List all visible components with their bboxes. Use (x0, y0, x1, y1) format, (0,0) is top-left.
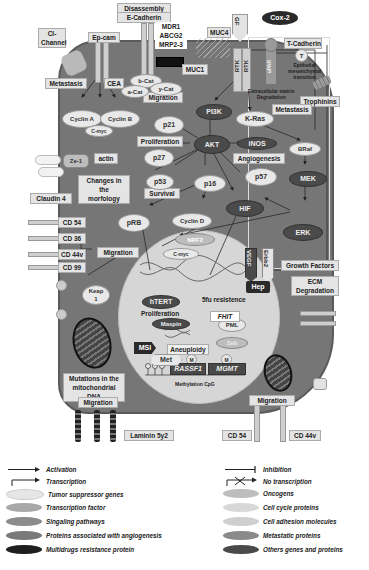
cd44v-label: CD 44v (58, 249, 86, 260)
changes-morphology-label: Changes in the morfology (78, 175, 130, 204)
metastasis-left-label: Metastasis (45, 78, 87, 89)
ep-cam-bar-1 (95, 36, 101, 83)
braf-node: BRaf (289, 142, 321, 156)
mek-node: MEK (289, 171, 327, 187)
proliferation-nucleus-label: Proliferation (141, 310, 179, 317)
laminin-anchor-2 (94, 410, 100, 442)
laminin-label: Laminin 5y2 (124, 430, 174, 441)
cox-2-node: Cox-2 (262, 11, 298, 25)
p27-node: p27 (144, 149, 174, 167)
legend-multidrug: Multidrugs resistance protein (6, 545, 134, 554)
gf-label: GF (234, 17, 240, 25)
migration-bottom-right-label: Migration (249, 395, 295, 406)
cd36-left-bar (28, 236, 60, 241)
mdr-label: MDR1 ABCG2 MRP2-3 (155, 22, 187, 49)
p57-node: p57 (245, 168, 277, 186)
membrane-protein-right (313, 378, 327, 390)
t-cadherin-label: T-Cadherin (284, 38, 322, 49)
cd54-left-bar (28, 220, 60, 225)
right-membrane-bar-2 (300, 321, 336, 326)
legend-metastatic: Metastatic proteins (223, 531, 320, 540)
hif-node: HIF (226, 200, 264, 217)
akt-node: AKT (194, 135, 230, 154)
emt-label: Epithelial mesenchymal transition (288, 62, 321, 80)
cea-label: CEA (104, 78, 124, 89)
5fu-resistance-label: 5fu resistence (202, 296, 246, 303)
inhibition-icon (223, 465, 259, 474)
inos-node: iNOS (237, 137, 277, 150)
actin-label: actin (94, 153, 118, 164)
laminin-anchor-1 (75, 410, 81, 442)
cd54-label: CD 54 (58, 217, 86, 228)
laminin-anchor-3 (110, 410, 116, 442)
c-myc-top-node: C-myc (85, 125, 113, 137)
maspin-node: Maspin (152, 318, 190, 330)
others-swatch (223, 545, 259, 554)
cd44v-left-bar (28, 252, 60, 257)
multidrug-swatch (6, 545, 42, 554)
a-cat-node: a-Cat (121, 85, 149, 98)
ecm-degradation-top-label: Extracellular matrix Degradation (248, 88, 294, 100)
p53-node: p53 (146, 174, 174, 190)
legend-oncogens: Oncogens (223, 489, 294, 498)
zeb-node: Zeb (216, 337, 248, 349)
ze-1-node: Ze-1 (63, 154, 89, 168)
legend-tumor-suppressor: Tumor suppressor genes (6, 489, 123, 500)
nrf2-node: NRF2 (175, 233, 215, 246)
migration-bottom-left-label: Migration (78, 397, 118, 408)
ecm-degradation-label: ECM Degradation (291, 276, 339, 296)
t-cadherin-node: T (295, 49, 308, 62)
claudin-4-protein (35, 155, 61, 165)
activation-arrow-icon (6, 465, 42, 474)
claudin-4-protein-2 (38, 167, 64, 177)
legend-angiogenesis: Proteins associated with angiogenesis (6, 531, 162, 540)
legend-no-transcription: No transcription (223, 477, 312, 486)
aneuploidy-label: Aneuploidy (167, 344, 209, 355)
muc4-glycans (196, 38, 230, 58)
mdr-pump (156, 57, 184, 67)
cd54-bottom-bar (254, 405, 260, 442)
c-myc-nucleus-node: C-myc (163, 248, 199, 260)
rtk-1-label: RTK (234, 60, 240, 72)
tumor-suppressor-swatch (6, 489, 44, 500)
erk-node: ERK (283, 224, 323, 241)
cell-adhesion-swatch (223, 517, 259, 526)
rtk-2-label: RTK (243, 60, 249, 72)
transcription-factor-swatch (6, 503, 42, 512)
muc4-label: MUC4 (207, 27, 231, 38)
cd44v-bottom-label: CD 44v (289, 430, 321, 441)
cl-channel-label: Cl- Channel (38, 28, 66, 48)
migration-left-label: Migration (97, 247, 139, 258)
membrane-protein-left-2 (56, 309, 67, 320)
legend-others: Others genes and proteins (223, 545, 343, 554)
k-ras-node: K-Ras (236, 111, 274, 127)
muc1-label: MUC1 (182, 64, 208, 75)
cd36-label: CD 36 (58, 233, 86, 244)
vegf-label: VEGF (246, 250, 252, 266)
proliferation-top-label: Proliferation (137, 136, 183, 147)
legend-cell-adhesion: Cell adhesion molecules (223, 517, 337, 526)
p16-node: p16 (194, 175, 226, 192)
angiogenesis-swatch (6, 531, 42, 540)
met-node: Met (150, 354, 182, 366)
y-cat-node: y-Cat (150, 82, 182, 96)
msi-node: MSI (134, 342, 156, 354)
upar-ligand (264, 38, 278, 52)
e-cadherin-bar-2 (148, 23, 154, 80)
cd99-label: CD 99 (58, 262, 86, 273)
oncogens-swatch (223, 489, 259, 498)
legend-signaling: Singaling pathways (6, 517, 105, 526)
keap-1-node: Keap 1 (82, 285, 110, 305)
mgmt-node: MGMT (208, 363, 246, 375)
claudin-4-label: Claudin 4 (30, 193, 72, 204)
growth-factors-label: Growth Factors (281, 260, 339, 271)
erbb2-label: Erbb2 (263, 250, 269, 267)
cd99-left-bar (28, 265, 60, 270)
angiogenesis-label: Angiogenesis (233, 153, 285, 164)
metastasis-right-label: Metastasis (272, 104, 312, 115)
p21-node: p21 (154, 116, 184, 134)
legend-transcription: Transcription (6, 477, 86, 486)
transcription-arrow-icon (6, 477, 42, 486)
no-transcription-icon (223, 477, 259, 486)
ep-cam-bar-2 (103, 36, 109, 83)
